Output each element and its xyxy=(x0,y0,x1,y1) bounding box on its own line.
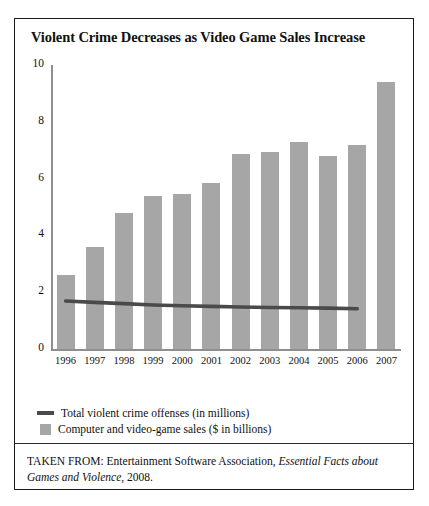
legend-bar-label: Computer and video-game sales ($ in bill… xyxy=(58,423,271,435)
figure-frame: Violent Crime Decreases as Video Game Sa… xyxy=(14,18,414,490)
source-attribution: TAKEN FROM: Entertainment Software Assoc… xyxy=(27,453,399,485)
source-suffix: , 2008. xyxy=(121,471,153,483)
legend-line-label: Total violent crime offenses (in million… xyxy=(61,407,249,419)
legend-bar-swatch-icon xyxy=(40,424,51,435)
x-tick-label: 2007 xyxy=(368,355,404,366)
trend-line-series xyxy=(15,19,415,491)
legend-item-violent-crime: Total violent crime offenses (in million… xyxy=(37,407,249,419)
source-divider xyxy=(15,443,413,444)
source-prefix: TAKEN FROM: Entertainment Software Assoc… xyxy=(27,455,276,467)
legend-item-game-sales: Computer and video-game sales ($ in bill… xyxy=(37,423,271,436)
plot-area: 0246810 19961997199819992000200120022003… xyxy=(15,19,415,491)
violent-crime-trend-line xyxy=(66,301,358,309)
legend-line-swatch-icon xyxy=(37,411,54,415)
